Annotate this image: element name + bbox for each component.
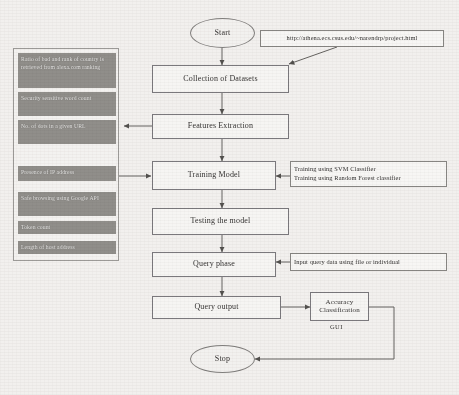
source-url-text: http://athena.ecs.csus.edu/~narendrp/pro… [264, 34, 440, 43]
feature-item-dot-count: No. of dots in a given URL [18, 120, 116, 144]
process-query-phase: Query phase [152, 252, 276, 277]
feature-item-security-word-count: Security sensitive word count [18, 92, 116, 116]
process-training-model: Training Model [152, 161, 276, 190]
note-query-input: Input query data using file or individua… [290, 253, 447, 271]
feature-item-token-count: Token count [18, 221, 116, 234]
process-accuracy-classification: Accuracy Classification [310, 292, 369, 321]
process-query-output: Query output [152, 296, 281, 319]
feature-item-host-length: Length of host address [18, 241, 116, 254]
gui-caption: GUI [330, 323, 343, 330]
note-source-url: http://athena.ecs.csus.edu/~narendrp/pro… [260, 30, 444, 47]
features-panel: Ratio of bad and rank of country is retr… [13, 48, 119, 261]
terminal-start: Start [190, 18, 255, 48]
feature-item-ip-address: Presence of IP address [18, 166, 116, 181]
feature-item-google-safe-browsing: Safe browsing using Google API [18, 192, 116, 216]
classifier-random-forest: Training using Random Forest classifier [294, 174, 443, 183]
arrow-url-to-collection [289, 47, 337, 64]
accuracy-line-2: Classification [319, 307, 360, 315]
process-features-extraction: Features Extraction [152, 114, 289, 139]
process-testing-the-model: Testing the model [152, 208, 289, 235]
feature-item-alexa-rank: Ratio of bad and rank of country is retr… [18, 53, 116, 88]
query-input-text: Input query data using file or individua… [294, 258, 443, 267]
terminal-stop: Stop [190, 345, 255, 373]
process-collection-of-datasets: Collection of Datasets [152, 65, 289, 93]
classifier-svm: Training using SVM Classifier [294, 165, 443, 174]
note-classifiers: Training using SVM Classifier Training u… [290, 161, 447, 187]
